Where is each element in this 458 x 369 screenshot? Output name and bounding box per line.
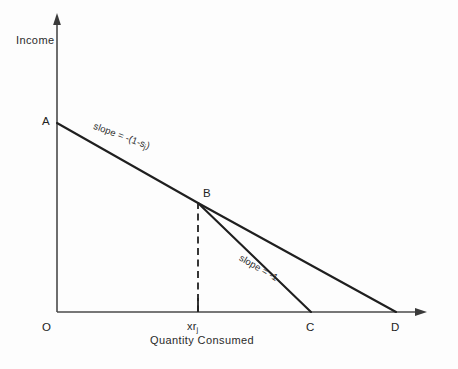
tick-label-xrj: xrj [187, 320, 198, 334]
y-axis-arrowhead [53, 13, 61, 25]
tick-label-xrj-subscript: j [197, 325, 199, 334]
x-axis-title: Quantity Consumed [150, 334, 254, 346]
y-axis-title: Income [16, 34, 54, 46]
tick-label-xrj-main: xr [187, 320, 197, 332]
segment-b-c [198, 203, 311, 312]
segment-b-d [198, 203, 396, 312]
point-label-c: C [306, 321, 315, 333]
budget-constraint-figure: Income Quantity Consumed A B C D O xrj s… [0, 0, 458, 369]
point-label-b: B [203, 187, 211, 199]
point-label-d: D [391, 321, 400, 333]
x-axis-arrowhead [415, 308, 427, 316]
chart-canvas [0, 0, 458, 369]
point-label-a: A [42, 115, 50, 127]
origin-label: O [42, 321, 51, 333]
